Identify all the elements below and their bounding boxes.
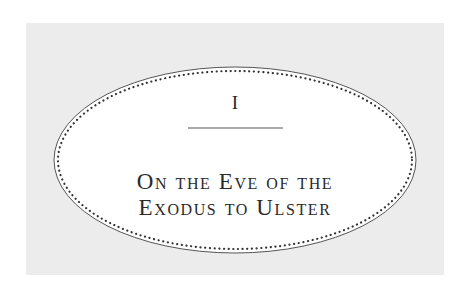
chapter-title-line-1: On the Eve of the	[0, 169, 470, 195]
oval-frame	[0, 0, 470, 293]
chapter-title-line-2: Exodus to Ulster	[0, 195, 470, 221]
chapter-number: I	[0, 92, 470, 114]
